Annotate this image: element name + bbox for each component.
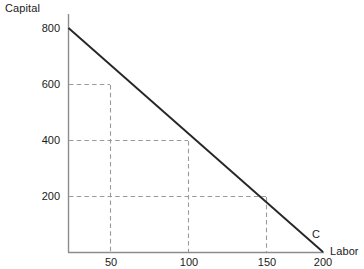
x-tick-label-200: 200 bbox=[303, 256, 343, 268]
y-tick-label-600: 600 bbox=[18, 78, 60, 90]
y-axis-title: Capital bbox=[5, 2, 40, 14]
x-tick-label-100: 100 bbox=[169, 256, 209, 268]
x-tick-label-150: 150 bbox=[247, 256, 287, 268]
series-line-C bbox=[69, 28, 324, 252]
x-tick-label-50: 50 bbox=[91, 256, 131, 268]
y-tick-label-400: 400 bbox=[18, 134, 60, 146]
y-tick-label-200: 200 bbox=[18, 190, 60, 202]
y-tick-label-800: 800 bbox=[18, 22, 60, 34]
series-label-C: C bbox=[312, 228, 320, 240]
chart-container: Capital Labor 800 600 400 200 50 100 150… bbox=[0, 0, 364, 269]
